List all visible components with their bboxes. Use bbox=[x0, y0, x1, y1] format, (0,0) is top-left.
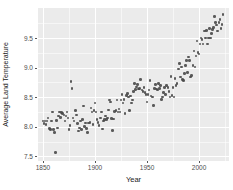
data-point bbox=[205, 29, 208, 32]
plot-panel bbox=[38, 8, 229, 161]
data-point bbox=[76, 122, 79, 125]
data-point bbox=[213, 15, 216, 18]
data-point bbox=[51, 111, 54, 114]
data-point bbox=[215, 24, 218, 27]
x-tick-mark bbox=[147, 161, 148, 163]
y-tick-label: 8.0 bbox=[0, 123, 33, 130]
gridline-major-x bbox=[147, 8, 148, 161]
data-point bbox=[59, 116, 62, 119]
data-point bbox=[159, 84, 162, 87]
x-tick-mark bbox=[199, 161, 200, 163]
y-tick-mark bbox=[35, 68, 37, 69]
data-point bbox=[170, 75, 173, 78]
data-point bbox=[190, 74, 193, 77]
data-point bbox=[147, 93, 150, 96]
y-tick-mark bbox=[35, 156, 37, 157]
data-point bbox=[160, 98, 163, 101]
gridline-minor-x bbox=[225, 8, 226, 161]
data-point bbox=[118, 108, 121, 111]
data-point bbox=[218, 21, 221, 24]
data-point bbox=[130, 102, 133, 105]
x-tick-label: 2000 bbox=[186, 164, 212, 171]
data-point bbox=[50, 120, 53, 123]
data-point bbox=[56, 127, 59, 130]
data-point bbox=[89, 121, 92, 124]
data-point bbox=[121, 93, 124, 96]
data-point bbox=[220, 27, 223, 30]
data-point bbox=[111, 129, 114, 132]
data-point bbox=[222, 13, 225, 16]
data-point bbox=[123, 98, 126, 101]
data-point bbox=[74, 109, 77, 112]
data-point bbox=[174, 77, 177, 80]
data-point bbox=[85, 127, 88, 130]
data-point bbox=[82, 105, 85, 108]
y-tick-mark bbox=[35, 127, 37, 128]
data-point bbox=[116, 99, 119, 102]
data-point bbox=[55, 119, 58, 122]
data-point bbox=[168, 90, 171, 93]
data-point bbox=[99, 117, 102, 120]
data-point bbox=[54, 151, 57, 154]
data-point bbox=[92, 123, 95, 126]
gridline-major-y bbox=[38, 156, 229, 157]
data-point bbox=[178, 62, 181, 65]
data-point bbox=[80, 128, 83, 131]
x-tick-mark bbox=[95, 161, 96, 163]
data-point bbox=[72, 117, 75, 120]
data-point bbox=[143, 86, 146, 89]
data-point bbox=[182, 79, 185, 82]
gridline-major-y bbox=[38, 97, 229, 98]
gridline-minor-x bbox=[69, 8, 70, 161]
data-point bbox=[219, 18, 222, 21]
data-point bbox=[152, 104, 155, 107]
gridline-major-y bbox=[38, 127, 229, 128]
x-tick-label: 1950 bbox=[134, 164, 160, 171]
data-point bbox=[73, 120, 76, 123]
data-point bbox=[86, 131, 89, 134]
scatter-plot-figure: Average Land Temperature 7.58.08.59.09.5… bbox=[0, 0, 233, 190]
data-point bbox=[164, 93, 167, 96]
data-point bbox=[184, 64, 187, 67]
data-point bbox=[148, 89, 151, 92]
y-axis-title: Average Land Temperature bbox=[2, 8, 9, 161]
y-tick-label: 9.5 bbox=[0, 35, 33, 42]
x-tick-label: 1850 bbox=[30, 164, 56, 171]
data-point bbox=[139, 78, 142, 81]
y-tick-mark bbox=[35, 38, 37, 39]
gridline-major-x bbox=[43, 8, 44, 161]
data-point bbox=[128, 109, 131, 112]
data-point bbox=[112, 118, 115, 121]
data-point bbox=[131, 99, 134, 102]
data-point bbox=[106, 117, 109, 120]
gridline-minor-y bbox=[38, 142, 229, 143]
gridline-minor-x bbox=[121, 8, 122, 161]
data-point bbox=[199, 43, 202, 46]
data-point bbox=[100, 111, 103, 114]
data-point bbox=[90, 107, 93, 110]
data-point bbox=[70, 80, 73, 83]
data-point bbox=[109, 101, 112, 104]
data-point bbox=[195, 55, 198, 58]
gridline-minor-y bbox=[38, 23, 229, 24]
gridline-major-x bbox=[95, 8, 96, 161]
data-point bbox=[206, 43, 209, 46]
data-point bbox=[163, 86, 166, 89]
gridline-minor-x bbox=[173, 8, 174, 161]
y-tick-label: 7.5 bbox=[0, 153, 33, 160]
gridline-major-y bbox=[38, 68, 229, 69]
data-point bbox=[188, 59, 191, 62]
data-point bbox=[75, 114, 78, 117]
data-point bbox=[46, 120, 49, 123]
gridline-minor-y bbox=[38, 53, 229, 54]
data-point bbox=[202, 43, 205, 46]
x-tick-label: 1900 bbox=[82, 164, 108, 171]
data-point bbox=[177, 68, 180, 71]
data-point bbox=[187, 56, 190, 59]
data-point bbox=[210, 32, 213, 35]
data-point bbox=[64, 120, 67, 123]
data-point bbox=[47, 117, 50, 120]
data-point bbox=[196, 40, 199, 43]
gridline-major-x bbox=[199, 8, 200, 161]
y-tick-label: 8.5 bbox=[0, 94, 33, 101]
